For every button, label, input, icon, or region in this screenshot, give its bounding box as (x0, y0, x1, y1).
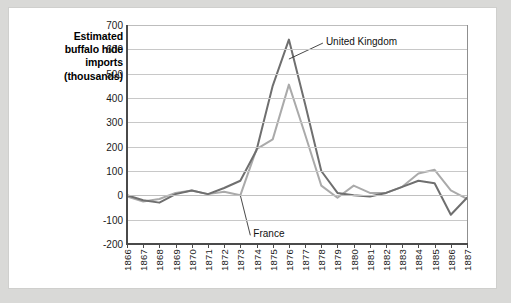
x-tick-1878 (321, 244, 322, 248)
gridline-0 (127, 195, 467, 196)
x-tick-label-1870: 1870 (187, 249, 198, 271)
x-tick-1884 (418, 244, 419, 248)
y-tick-label--200: -200 (83, 239, 123, 250)
x-tick-1882 (386, 244, 387, 248)
x-tick-label-1873: 1873 (235, 249, 246, 271)
gridline-100 (127, 171, 467, 172)
annotation-label-united-kingdom: United Kingdom (326, 36, 397, 47)
x-tick-label-1885: 1885 (430, 249, 441, 271)
x-tick-1886 (451, 244, 452, 248)
y-tick-label-200: 200 (83, 141, 123, 152)
y-tick-label-500: 500 (83, 68, 123, 79)
x-tick-1885 (435, 244, 436, 248)
gridline-400 (127, 98, 467, 99)
x-tick-1873 (240, 244, 241, 248)
x-tick-label-1878: 1878 (316, 249, 327, 271)
x-tick-1876 (289, 244, 290, 248)
y-axis-line (126, 25, 128, 244)
x-tick-label-1881: 1881 (365, 249, 376, 271)
x-tick-1883 (402, 244, 403, 248)
x-tick-1880 (354, 244, 355, 248)
gridline-600 (127, 49, 467, 50)
x-tick-label-1876: 1876 (284, 249, 295, 271)
x-tick-label-1883: 1883 (397, 249, 408, 271)
gridline-500 (127, 74, 467, 75)
x-tick-1871 (208, 244, 209, 248)
gridline--100 (127, 220, 467, 221)
x-tick-label-1867: 1867 (138, 249, 149, 271)
y-tick-label-100: 100 (83, 166, 123, 177)
x-tick-1866 (127, 244, 128, 248)
gridline-300 (127, 122, 467, 123)
gridlines (127, 25, 467, 244)
annotation-label-france: France (253, 228, 284, 239)
gridline-700 (127, 25, 467, 26)
plot-right-border (467, 25, 468, 244)
x-tick-label-1882: 1882 (381, 249, 392, 271)
x-tick-1868 (159, 244, 160, 248)
x-tick-1874 (257, 244, 258, 248)
x-tick-label-1887: 1887 (462, 249, 473, 271)
gridline-200 (127, 147, 467, 148)
y-tick-label-0: 0 (83, 190, 123, 201)
x-tick-label-1871: 1871 (203, 249, 214, 271)
x-tick-label-1879: 1879 (332, 249, 343, 271)
y-tick-label-700: 700 (83, 20, 123, 31)
x-tick-label-1886: 1886 (446, 249, 457, 271)
plot-area: United KingdomFrance (127, 25, 467, 244)
x-tick-label-1880: 1880 (349, 249, 360, 271)
x-tick-label-1875: 1875 (268, 249, 279, 271)
y-tick-label-300: 300 (83, 117, 123, 128)
x-tick-1881 (370, 244, 371, 248)
x-tick-label-1869: 1869 (171, 249, 182, 271)
x-tick-label-1874: 1874 (252, 249, 263, 271)
x-tick-1869 (176, 244, 177, 248)
x-tick-label-1866: 1866 (122, 249, 133, 271)
x-tick-1870 (192, 244, 193, 248)
y-tick-label-400: 400 (83, 93, 123, 104)
x-tick-1887 (467, 244, 468, 248)
x-tick-1875 (273, 244, 274, 248)
x-tick-label-1872: 1872 (219, 249, 230, 271)
chart-figure: Estimated buffalo hide imports (thousand… (9, 8, 496, 288)
y-tick-label-600: 600 (83, 44, 123, 55)
y-axis-tick-labels: -200-1000100200300400500600700 (81, 25, 123, 244)
x-tick-label-1884: 1884 (413, 249, 424, 271)
x-tick-1867 (143, 244, 144, 248)
x-tick-1879 (337, 244, 338, 248)
x-tick-1877 (305, 244, 306, 248)
x-tick-label-1868: 1868 (154, 249, 165, 271)
x-tick-1872 (224, 244, 225, 248)
x-tick-label-1877: 1877 (300, 249, 311, 271)
x-axis-tick-labels: 1866186718681869187018711872187318741875… (127, 249, 467, 285)
y-tick-label--100: -100 (83, 214, 123, 225)
